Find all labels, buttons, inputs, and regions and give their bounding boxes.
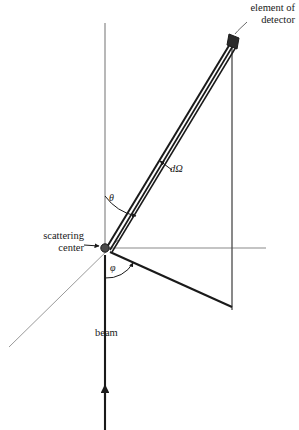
detector-label-leader-line — [235, 22, 247, 34]
scattering-center-node — [101, 244, 109, 252]
cone-ray-middle — [110, 44, 234, 250]
label-solid-angle: dΩ — [170, 163, 183, 175]
label-beam: beam — [95, 327, 118, 339]
diagram-canvas — [0, 0, 299, 430]
lower-bounding-ray — [110, 252, 232, 307]
label-theta-angle: θ — [109, 192, 114, 203]
label-phi-angle: φ — [110, 262, 116, 273]
cone-ray-lower — [112, 47, 236, 252]
label-scattering-center: scattering center — [28, 230, 84, 254]
scattering-center-leader-arrow — [84, 245, 99, 246]
cone-ray-upper — [107, 39, 233, 247]
scattering-geometry-figure: element of detector scattering center be… — [0, 0, 299, 430]
label-element-of-detector: element of detector — [250, 2, 295, 26]
